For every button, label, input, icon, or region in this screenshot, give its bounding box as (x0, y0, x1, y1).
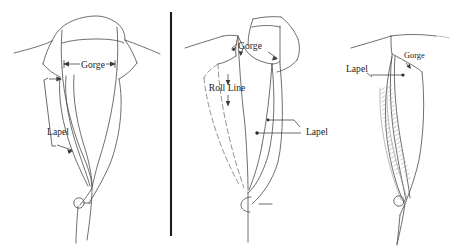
label-gorge-mid-panel: Gorge (238, 40, 262, 51)
label-gorge-left-panel: Gorge (81, 59, 105, 70)
lapel-diagram-figure: Gorge Lapel (0, 0, 451, 250)
diagram-canvas: Gorge Lapel (0, 0, 451, 250)
lapel-leader-dot-right (401, 73, 404, 76)
label-lapel-left-panel: Lapel (47, 126, 69, 137)
lapel-leader-dot-upper (267, 119, 270, 122)
label-lapel-mid-panel: Lapel (306, 126, 328, 137)
label-lapel-right-panel: Lapel (346, 63, 368, 74)
label-roll-line-mid-panel: Roll Line (209, 82, 246, 93)
label-gorge-right-panel: Gorge (404, 51, 425, 60)
lapel-leader-dot-lower (255, 131, 258, 134)
canvas-background (0, 0, 451, 250)
